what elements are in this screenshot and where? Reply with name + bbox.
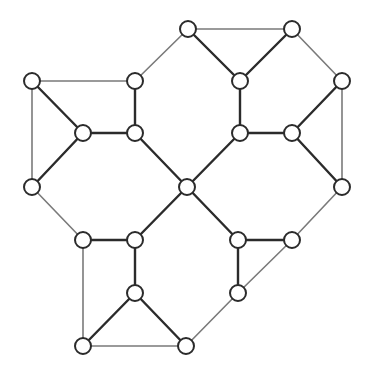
graph-node	[75, 338, 91, 354]
graph-edge	[238, 240, 292, 293]
graph-node	[24, 179, 40, 195]
graph-node	[284, 232, 300, 248]
graph-edge	[135, 133, 187, 187]
graph-node	[230, 232, 246, 248]
graph-diagram	[0, 0, 371, 379]
graph-edge	[135, 293, 186, 346]
graph-node	[230, 285, 246, 301]
graph-node	[127, 285, 143, 301]
graph-edge	[135, 187, 187, 240]
graph-edge	[186, 293, 238, 346]
graph-node	[24, 73, 40, 89]
graph-edge	[187, 187, 238, 240]
graph-edge	[187, 133, 240, 187]
graph-edge	[292, 29, 342, 81]
graph-node	[334, 179, 350, 195]
graph-node	[179, 179, 195, 195]
graph-edge	[32, 81, 83, 133]
graph-node	[180, 21, 196, 37]
graph-node	[127, 73, 143, 89]
graph-edge	[240, 29, 292, 81]
graph-node	[127, 232, 143, 248]
graph-edge	[32, 187, 83, 240]
graph-edge	[292, 133, 342, 187]
graph-node	[232, 125, 248, 141]
graph-edge	[32, 133, 83, 187]
nodes-layer	[24, 21, 350, 354]
graph-edge	[135, 29, 188, 81]
graph-node	[334, 73, 350, 89]
graph-node	[284, 21, 300, 37]
graph-node	[232, 73, 248, 89]
graph-edge	[292, 187, 342, 240]
graph-canvas	[0, 0, 371, 379]
graph-node	[75, 125, 91, 141]
graph-node	[178, 338, 194, 354]
graph-node	[75, 232, 91, 248]
graph-node	[127, 125, 143, 141]
graph-node	[284, 125, 300, 141]
graph-edge	[188, 29, 240, 81]
graph-edge	[83, 293, 135, 346]
graph-edge	[292, 81, 342, 133]
